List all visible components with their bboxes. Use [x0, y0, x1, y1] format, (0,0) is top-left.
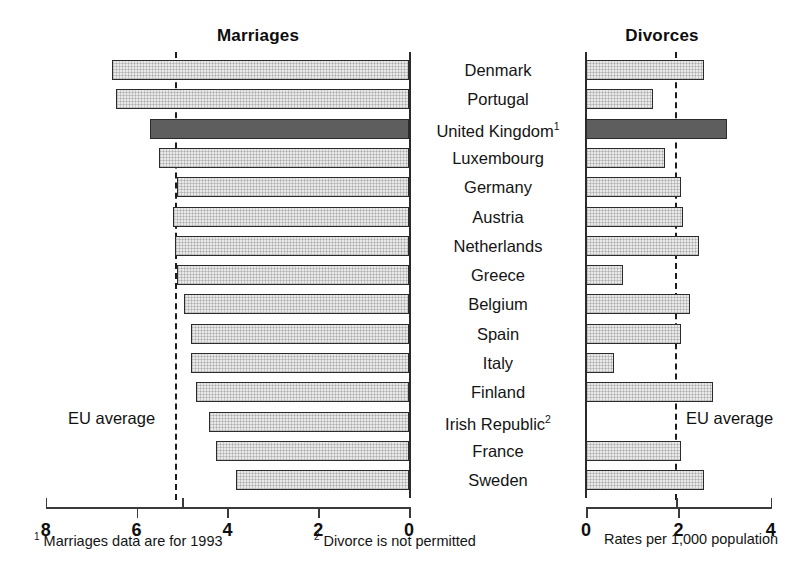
- bar-divorces: [586, 207, 683, 227]
- axis-tick: [586, 507, 588, 518]
- bar-marriages: [196, 382, 409, 402]
- bar-divorces: [586, 470, 704, 490]
- chart-canvas: Marriages Divorces EU average EU average…: [0, 0, 812, 580]
- bar-marriages: [177, 177, 409, 197]
- bar-marriages: [116, 89, 409, 109]
- category-label: Sweden: [412, 471, 584, 490]
- axis-tick: [182, 498, 184, 509]
- bar-marriages: [184, 294, 409, 314]
- category-label: Denmark: [412, 61, 584, 80]
- bar-divorces: [586, 294, 690, 314]
- category-label: Austria: [412, 208, 584, 227]
- bar-divorces: [586, 441, 681, 461]
- bar-divorces: [586, 236, 699, 256]
- axis-tick: [771, 498, 773, 509]
- bar-divorces: [586, 119, 727, 139]
- bar-marriages: [209, 412, 409, 432]
- bar-marriages: [150, 119, 409, 139]
- footnote-text-1: Marriages data are for 1993: [40, 533, 223, 549]
- footnote-divorce-not-permitted: 2 Divorce is not permitted: [314, 531, 476, 549]
- axis-tick: [137, 507, 139, 518]
- category-label: Netherlands: [412, 237, 584, 256]
- category-label: France: [412, 442, 584, 461]
- category-label: Germany: [412, 178, 584, 197]
- axis-tick: [678, 507, 680, 518]
- bar-marriages: [159, 148, 409, 168]
- bar-marriages: [177, 265, 409, 285]
- bar-divorces: [586, 265, 623, 285]
- axis-tick: [46, 498, 48, 509]
- category-label: Luxembourg: [412, 149, 584, 168]
- bar-marriages: [191, 353, 409, 373]
- bar-divorces: [586, 382, 713, 402]
- bar-marriages: [175, 236, 409, 256]
- bar-marriages: [173, 207, 409, 227]
- footnote-text-2: Divorce is not permitted: [320, 533, 476, 549]
- bar-divorces: [586, 353, 614, 373]
- category-label: Italy: [412, 354, 584, 373]
- axis-tick: [227, 507, 229, 518]
- bar-marriages: [191, 324, 409, 344]
- axis-tick: [318, 507, 320, 518]
- axis-tick-label: 0: [581, 520, 591, 541]
- chart-header-divorces: Divorces: [408, 26, 812, 46]
- bar-marriages: [216, 441, 409, 461]
- bar-divorces: [586, 148, 665, 168]
- category-label: Portugal: [412, 90, 584, 109]
- category-label: Spain: [412, 325, 584, 344]
- axis-tick: [409, 507, 411, 518]
- axis-tick: [676, 498, 678, 509]
- category-label: United Kingdom1: [412, 120, 584, 141]
- category-label: Finland: [412, 383, 584, 402]
- bar-marriages: [236, 470, 409, 490]
- footnote-units: Rates per 1,000 population: [604, 531, 778, 547]
- bar-marriages: [112, 60, 409, 80]
- category-label: Greece: [412, 266, 584, 285]
- category-label: Irish Republic2: [412, 413, 584, 434]
- axis-tick-label: 4: [222, 520, 232, 541]
- bar-divorces: [586, 89, 653, 109]
- category-footnote-marker: 2: [545, 413, 551, 425]
- footnote-marriages-1993: 1 Marriages data are for 1993: [34, 531, 223, 549]
- category-label: Belgium: [412, 295, 584, 314]
- bar-divorces: [586, 324, 681, 344]
- category-footnote-marker: 1: [554, 120, 560, 132]
- bar-divorces: [586, 60, 704, 80]
- bar-divorces: [586, 177, 681, 197]
